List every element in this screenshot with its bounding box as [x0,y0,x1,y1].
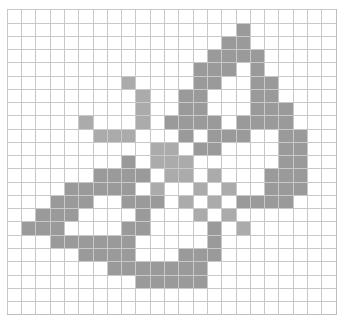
grid-cell [236,221,250,234]
grid-cell [93,9,107,22]
grid-cell [150,76,164,89]
grid-cell [50,288,64,301]
grid-cell [50,168,64,181]
grid-cell [278,221,292,234]
grid-cell [121,102,135,115]
grid-cell [78,49,92,62]
grid-cell [107,288,121,301]
grid-cell [236,155,250,168]
grid-cell [178,36,192,49]
grid-cell [293,182,307,195]
grid-cell [236,195,250,208]
grid-cell [293,129,307,142]
grid-cell [35,9,49,22]
grid-cell [21,9,35,22]
grid-cell [264,301,278,314]
grid-cell [21,62,35,75]
grid-cell [35,155,49,168]
grid-cell [193,129,207,142]
grid-cell [78,248,92,261]
grid-cell [178,182,192,195]
grid-cell [107,168,121,181]
grid-cell [221,129,235,142]
grid-cell [307,102,321,115]
grid-cell [321,23,335,36]
grid-cell [35,288,49,301]
grid-cell [193,168,207,181]
grid-cell [135,248,149,261]
grid-cell [264,208,278,221]
grid-cell [178,129,192,142]
grid-cell [150,301,164,314]
grid-cell [278,23,292,36]
grid-cell [264,49,278,62]
grid-cell [321,248,335,261]
grid-cell [93,221,107,234]
grid-cell [135,168,149,181]
grid-cell [150,9,164,22]
grid-cell [78,142,92,155]
grid-cell [107,221,121,234]
grid-cell [35,182,49,195]
grid-cell [207,89,221,102]
grid-cell [278,102,292,115]
grid-cell [93,288,107,301]
grid-cell [221,102,235,115]
grid-cell [293,49,307,62]
grid-cell [193,195,207,208]
grid-cell [135,49,149,62]
grid-cell [264,168,278,181]
grid-cell [250,142,264,155]
grid-cell [50,261,64,274]
grid-cell [293,168,307,181]
grid-cell [135,62,149,75]
grid-cell [307,275,321,288]
grid-cell [278,49,292,62]
grid-cell [121,142,135,155]
grid-cell [178,261,192,274]
grid-cell [278,168,292,181]
grid-cell [236,208,250,221]
grid-cell [93,115,107,128]
grid-cell [64,89,78,102]
grid-cell [21,49,35,62]
grid-cell [107,36,121,49]
grid-cell [193,49,207,62]
grid-cell [164,182,178,195]
grid-cell [78,195,92,208]
grid-cell [64,36,78,49]
grid-cell [307,235,321,248]
grid-cell [250,76,264,89]
grid-cell [93,76,107,89]
grid-cell [7,142,21,155]
grid-cell [250,62,264,75]
grid-cell [178,115,192,128]
grid-cell [7,115,21,128]
grid-cell [164,89,178,102]
grid-cell [164,208,178,221]
grid-cell [50,221,64,234]
grid-cell [307,129,321,142]
grid-cell [307,76,321,89]
grid-cell [178,62,192,75]
grid-cell [236,261,250,274]
grid-cell [107,23,121,36]
grid-cell [321,261,335,274]
grid-cell [293,76,307,89]
grid-cell [278,89,292,102]
grid-cell [64,49,78,62]
grid-cell [264,195,278,208]
grid-cell [264,115,278,128]
grid-cell [64,115,78,128]
grid-cell [207,9,221,22]
grid-cell [78,182,92,195]
grid-cell [21,76,35,89]
grid-cell [236,102,250,115]
grid-cell [150,168,164,181]
grid-cell [178,23,192,36]
grid-cell [35,235,49,248]
grid-cell [121,89,135,102]
grid-cell [250,115,264,128]
grid-cell [93,155,107,168]
grid-cell [150,129,164,142]
